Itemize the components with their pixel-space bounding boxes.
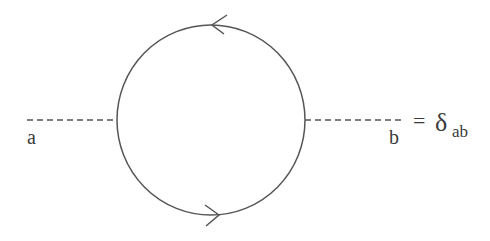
label-a: a bbox=[27, 126, 36, 148]
fermion-loop bbox=[117, 25, 305, 215]
feynman-diagram: a b = δ ab bbox=[0, 0, 490, 241]
delta-subscript: ab bbox=[452, 122, 468, 141]
label-b: b bbox=[389, 126, 399, 148]
equals-sign: = bbox=[413, 108, 425, 133]
delta-symbol: δ bbox=[435, 108, 447, 137]
